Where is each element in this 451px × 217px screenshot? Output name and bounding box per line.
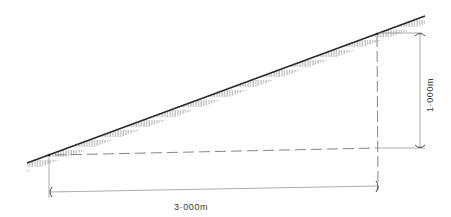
vertical-dimension: 1·000m — [415, 34, 435, 148]
vertical-dimension-label: 1·000m — [425, 78, 435, 112]
horizontal-reference-dashed — [55, 148, 377, 155]
ground-slope-line — [27, 16, 425, 163]
vertical-reference-dashed — [377, 36, 378, 190]
upper-point-marker — [376, 33, 379, 36]
slope-diagram: 3·000m 1·000m — [0, 0, 451, 217]
horizontal-dimension-label: 3·000m — [174, 202, 208, 212]
lower-point-marker — [48, 154, 51, 157]
horizontal-dimension: 3·000m — [50, 181, 378, 212]
